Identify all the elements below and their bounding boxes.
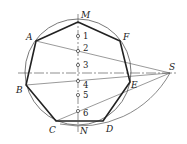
ray-S-A [36,41,170,73]
division-point-1 [76,34,79,37]
heptagon-construction-diagram: 1 2 3 4 5 6 M F E D C B A S N [0,0,187,144]
division-label-3: 3 [83,60,88,70]
point-label-N: N [79,126,89,136]
division-point-4 [76,79,79,82]
vertex-label-D: D [105,124,113,134]
division-point-2 [76,49,79,52]
ray-S-B [26,73,170,85]
division-point-5 [76,93,79,96]
vertex-label-C: C [49,125,56,135]
diagram-canvas: 1 2 3 4 5 6 M F E D C B A S N [0,0,187,144]
division-label-4: 4 [83,80,88,90]
point-label-S: S [169,62,175,72]
vertex-label-F: F [122,32,130,42]
division-point-6 [76,109,79,112]
vertex-label-A: A [25,32,33,42]
vertex-label-B: B [15,85,23,95]
vertex-label-M: M [80,10,91,20]
division-label-2: 2 [83,43,88,53]
ray-S-C [56,73,170,121]
division-label-1: 1 [83,31,88,41]
vertex-label-E: E [130,80,138,90]
division-label-6: 6 [83,108,88,118]
division-point-3 [76,63,79,66]
division-label-5: 5 [83,90,88,100]
